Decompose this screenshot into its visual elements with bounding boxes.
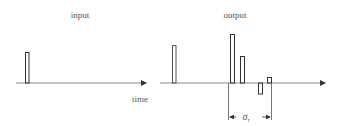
output-title: output — [223, 10, 247, 20]
output-bar-2 — [241, 57, 245, 84]
output-bar-3 — [268, 78, 272, 84]
output-bar-negative — [259, 83, 263, 94]
input-panel: input time — [16, 10, 148, 104]
input-impulse-bar — [26, 53, 30, 84]
time-axis-label: time — [132, 94, 148, 104]
delay-spread-symbol: στ — [242, 111, 250, 123]
output-panel: output στ — [160, 10, 325, 123]
impulse-response-diagram: input time output στ — [0, 0, 340, 126]
output-bar-reference — [173, 46, 177, 84]
output-bar-1 — [231, 35, 235, 84]
input-title: input — [71, 10, 90, 20]
